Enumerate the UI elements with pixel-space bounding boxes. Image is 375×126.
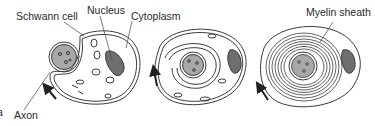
stage-3-cell (260, 26, 360, 106)
stage-3-arrow (259, 86, 268, 100)
stage-2-cell (155, 29, 246, 105)
panel-marker: a (0, 106, 3, 118)
label-nucleus: Nucleus (87, 4, 125, 16)
nucleus-shape (106, 51, 124, 76)
label-axon: Axon (14, 109, 38, 121)
label-schwann-cell: Schwann cell (16, 10, 78, 22)
stage-1-cell (49, 31, 140, 104)
label-cytoplasm: Cytoplasm (131, 10, 181, 22)
label-myelin-sheath: Myelin sheath (306, 6, 371, 18)
stage-2-arrow (154, 70, 157, 86)
